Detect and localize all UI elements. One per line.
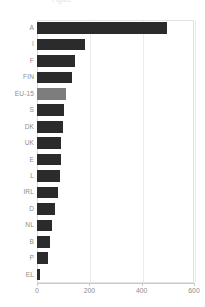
bar-el: [37, 269, 40, 281]
bar-s: [37, 104, 64, 116]
y-axis-labels: AIFFINEU-15SDKUKELIRLDNLBPEL: [0, 20, 34, 283]
x-axis: 0200400600: [37, 283, 194, 307]
y-tick-label-fin: FIN: [0, 69, 34, 85]
y-tick-label-f: F: [0, 53, 34, 69]
y-tick-label-d: D: [0, 201, 34, 217]
x-tick-mark-0: [37, 283, 38, 286]
bars-layer: [37, 20, 194, 283]
y-tick-label-a: A: [0, 20, 34, 36]
chart-title: Figure: [52, 0, 72, 3]
x-axis-line: [37, 283, 194, 284]
bar-l: [37, 170, 60, 182]
bar-p: [37, 252, 48, 264]
bar-f: [37, 55, 75, 67]
x-tick-label-400: 400: [136, 287, 147, 294]
y-tick-label-dk: DK: [0, 119, 34, 135]
bar-d: [37, 203, 55, 215]
y-tick-label-p: P: [0, 250, 34, 266]
y-tick-label-el: EL: [0, 267, 34, 283]
x-tick-mark-600: [194, 283, 195, 286]
bar-uk: [37, 137, 61, 149]
y-tick-label-i: I: [0, 36, 34, 52]
y-tick-label-s: S: [0, 102, 34, 118]
x-tick-label-0: 0: [35, 287, 39, 294]
bar-dk: [37, 121, 63, 133]
bar-a: [37, 22, 167, 34]
bar-fin: [37, 72, 72, 84]
y-tick-label-l: L: [0, 168, 34, 184]
y-tick-label-eu-15: EU-15: [0, 86, 34, 102]
chart-title-strip: Figure: [0, 0, 205, 9]
chart-figure: Figure AIFFINEU-15SDKUKELIRLDNLBPEL 0200…: [0, 0, 205, 307]
bar-nl: [37, 220, 52, 232]
y-tick-label-irl: IRL: [0, 184, 34, 200]
y-tick-label-uk: UK: [0, 135, 34, 151]
x-tick-mark-200: [89, 283, 90, 286]
x-tick-mark-400: [142, 283, 143, 286]
gridline-x-600: [195, 21, 196, 282]
y-tick-label-nl: NL: [0, 217, 34, 233]
x-tick-label-600: 600: [188, 287, 199, 294]
y-tick-label-b: B: [0, 234, 34, 250]
bar-eu-15: [37, 88, 66, 100]
y-tick-label-e: E: [0, 152, 34, 168]
x-tick-label-200: 200: [84, 287, 95, 294]
bar-irl: [37, 187, 58, 199]
bar-e: [37, 154, 61, 166]
bar-b: [37, 236, 50, 248]
bar-i: [37, 39, 85, 51]
